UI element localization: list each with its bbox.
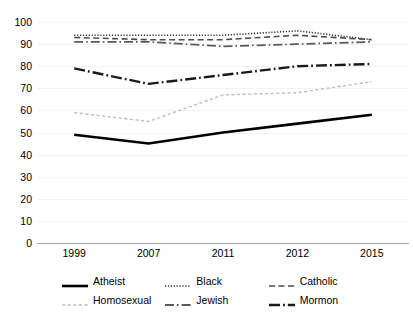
plot-area: [37, 22, 409, 243]
y-tick-label: 90: [4, 39, 32, 49]
y-tick-label: 20: [4, 194, 32, 204]
y-tick-label: 30: [4, 172, 32, 182]
legend-swatch-atheist-icon: [62, 277, 88, 287]
legend-item-mormon[interactable]: Mormon: [269, 295, 372, 306]
series-line-homosexual: [74, 82, 372, 122]
y-tick-label: 50: [4, 128, 32, 138]
series-line-jewish: [74, 42, 372, 46]
x-tick-label: 2015: [342, 247, 402, 259]
legend-label: Catholic: [300, 276, 338, 287]
chart-legend: AtheistBlackCatholicHomosexualJewishMorm…: [62, 272, 372, 310]
legend-label: Mormon: [300, 295, 339, 306]
y-tick-label: 0: [4, 238, 32, 248]
legend-swatch-catholic-icon: [269, 277, 295, 287]
legend-item-black[interactable]: Black: [165, 276, 268, 287]
series-line-mormon: [74, 64, 372, 84]
legend-item-homosexual[interactable]: Homosexual: [62, 295, 165, 306]
series-line-atheist: [74, 115, 372, 144]
legend-item-atheist[interactable]: Atheist: [62, 276, 165, 287]
legend-label: Black: [196, 276, 222, 287]
legend-swatch-black-icon: [165, 277, 191, 287]
x-tick-label: 2007: [119, 247, 179, 259]
y-tick-label: 70: [4, 83, 32, 93]
legend-swatch-jewish-icon: [165, 296, 191, 306]
y-tick-label: 40: [4, 150, 32, 160]
legend-label: Jewish: [196, 295, 228, 306]
y-tick-label: 80: [4, 61, 32, 71]
legend-swatch-mormon-icon: [269, 296, 295, 306]
y-tick-label: 10: [4, 216, 32, 226]
x-axis: 19992007201120122015: [37, 247, 409, 263]
legend-label: Homosexual: [93, 295, 151, 306]
line-chart: 1009080706050403020100 19992007201120122…: [0, 0, 413, 314]
x-tick-label: 1999: [44, 247, 104, 259]
legend-item-jewish[interactable]: Jewish: [165, 295, 268, 306]
legend-item-catholic[interactable]: Catholic: [269, 276, 372, 287]
axis-baseline: [37, 243, 409, 244]
series-line-black: [74, 31, 372, 40]
x-tick-label: 2011: [193, 247, 253, 259]
y-axis: 1009080706050403020100: [0, 0, 32, 314]
series-group: [37, 22, 409, 243]
legend-swatch-homosexual-icon: [62, 296, 88, 306]
y-tick-label: 60: [4, 105, 32, 115]
x-tick-label: 2012: [267, 247, 327, 259]
y-tick-label: 100: [4, 17, 32, 27]
legend-label: Atheist: [93, 276, 125, 287]
